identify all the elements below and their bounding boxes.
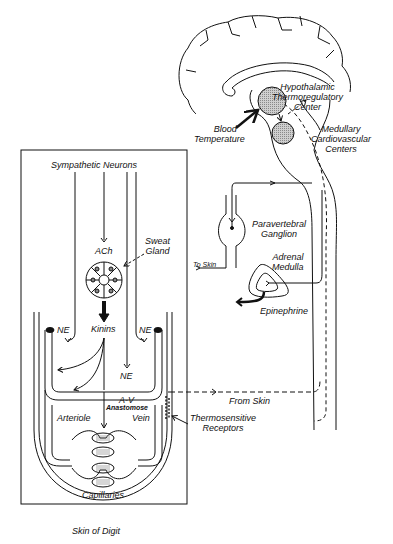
- anastomose-label: Anastomose: [106, 404, 148, 412]
- from-skin-path: [170, 380, 320, 392]
- ne-left-label: NE: [57, 325, 70, 335]
- sympathetic-neuron-4: [136, 172, 144, 340]
- hypothalamic-center-label: Hypothalamic Thermoregulatory Center: [272, 82, 343, 112]
- vein-label: Vein: [132, 413, 150, 423]
- to-skin-label: To Skin: [193, 261, 216, 269]
- adrenal-medulla-label: Adrenal Medulla: [272, 252, 304, 272]
- label-line: Adrenal: [272, 252, 304, 262]
- ach-label: ACh: [95, 246, 113, 256]
- label-line: Medullary: [311, 124, 371, 134]
- label-line: Hypothalamic: [272, 82, 343, 92]
- label-line: Ganglion: [252, 229, 306, 239]
- blood-temperature-label: Blood Temperature: [194, 124, 245, 144]
- label-line: Sweat: [145, 236, 170, 246]
- thermosensitive-receptors-label: Thermosensitive Receptors: [190, 413, 256, 433]
- label-line: Cardiovascular: [311, 134, 371, 144]
- epinephrine-label: Epinephrine: [260, 306, 308, 316]
- label-line: Medulla: [272, 262, 304, 272]
- label-line: Centers: [311, 144, 371, 154]
- ne-terminal-right: [154, 328, 162, 333]
- kinins-label: Kinins: [91, 324, 116, 334]
- sweat-gland: [86, 262, 122, 298]
- medullary-centers-label: Medullary Cardiovascular Centers: [311, 124, 371, 154]
- label-line: Thermoregulatory: [272, 92, 343, 102]
- label-line: Thermosensitive: [190, 413, 256, 423]
- sympathetic-neuron-1: [68, 172, 75, 340]
- figure-caption: Skin of Digit: [72, 526, 120, 536]
- ne-right-label: NE: [139, 325, 152, 335]
- label-line: Paravertebral: [252, 219, 306, 229]
- capillaries-label: Capillaries: [82, 490, 124, 500]
- label-line: Gland: [145, 246, 170, 256]
- medullary-center-node: [272, 122, 294, 144]
- from-skin-label: From Skin: [229, 396, 270, 406]
- arteriole-label: Arteriole: [57, 413, 91, 423]
- ne-center-label: NE: [120, 371, 133, 381]
- sweat-gland-label: Sweat Gland: [145, 236, 170, 256]
- paravertebral-ganglion-label: Paravertebral Ganglion: [252, 219, 306, 239]
- sympathetic-neurons-label: Sympathetic Neurons: [51, 160, 137, 170]
- label-line: Center: [272, 102, 343, 112]
- label-line: Blood: [194, 124, 245, 134]
- hypo-to-medulla-arrow: [279, 114, 281, 121]
- label-line: Temperature: [194, 134, 245, 144]
- ne-terminal-left: [46, 328, 54, 333]
- label-line: Receptors: [190, 423, 256, 433]
